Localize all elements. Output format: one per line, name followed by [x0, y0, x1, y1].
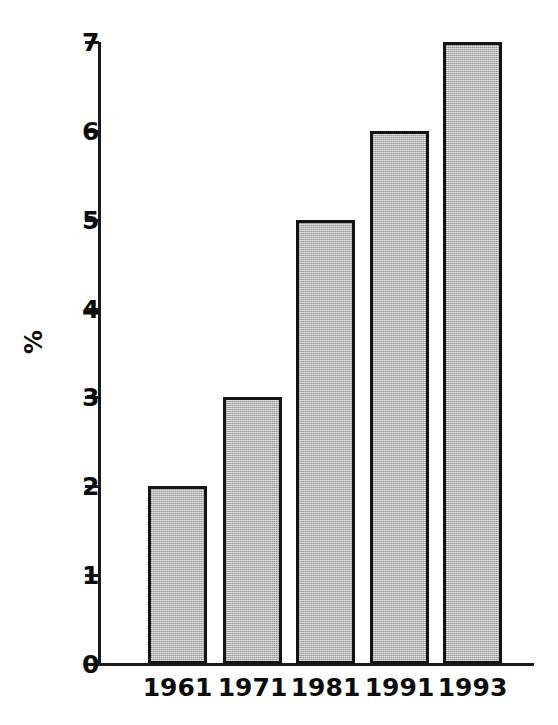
- y-tick-label: 3: [63, 385, 99, 410]
- bar-1971: [223, 397, 282, 664]
- y-tick-label: 6: [63, 118, 99, 143]
- y-axis-title: %: [22, 330, 46, 354]
- bar-1993: [443, 42, 502, 664]
- y-tick-label: 5: [63, 207, 99, 232]
- bar-1991: [370, 131, 429, 664]
- x-axis-label-1961: 1961: [134, 674, 221, 702]
- bar-1961: [148, 486, 207, 664]
- bar-1981: [296, 220, 355, 664]
- y-tick-label: 2: [63, 474, 99, 499]
- x-axis-label-1993: 1993: [429, 674, 516, 702]
- y-tick-label: 4: [63, 296, 99, 321]
- bar-chart: % 76543210 19611971198119911993: [0, 0, 558, 725]
- y-tick-label: 0: [63, 652, 99, 677]
- y-tick-label: 7: [63, 30, 99, 55]
- y-tick-label: 1: [63, 563, 99, 588]
